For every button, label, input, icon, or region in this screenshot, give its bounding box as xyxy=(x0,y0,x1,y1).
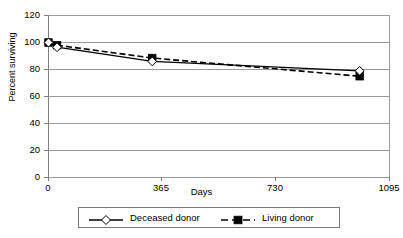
legend-key-open-diamond-icon xyxy=(87,212,125,224)
chart-legend: Deceased donor Living donor xyxy=(78,207,340,228)
legend-item-living-donor: Living donor xyxy=(219,208,314,227)
series-living-donor xyxy=(45,39,364,80)
gridlines xyxy=(48,16,390,178)
legend-label-deceased-donor: Deceased donor xyxy=(130,212,200,223)
legend-key-filled-square-icon xyxy=(219,212,257,224)
survival-line-chart: Percent surviving 120 100 80 60 40 20 0 xyxy=(0,0,403,238)
plot-area xyxy=(0,0,403,238)
legend-item-deceased-donor: Deceased donor xyxy=(87,208,200,227)
legend-label-living-donor: Living donor xyxy=(262,212,314,223)
x-axis-title: Days xyxy=(0,186,403,197)
